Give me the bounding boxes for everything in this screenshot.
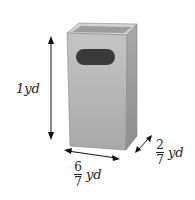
width-arrow	[64, 148, 120, 161]
depth-denominator: 7	[156, 154, 164, 166]
depth-unit: yd	[168, 145, 184, 160]
depth-numerator: 2	[156, 139, 164, 151]
height-label: 1yd	[16, 81, 40, 96]
depth-label: 2 7 yd	[156, 139, 184, 166]
width-label: 6 7 yd	[74, 161, 102, 188]
height-arrow	[48, 36, 54, 140]
width-numerator: 6	[74, 161, 82, 173]
can-opening	[72, 26, 132, 33]
handle-slot	[76, 49, 115, 65]
width-denominator: 7	[74, 176, 82, 188]
can-side	[126, 24, 137, 150]
width-unit: yd	[86, 167, 102, 182]
depth-arrow	[135, 135, 152, 153]
